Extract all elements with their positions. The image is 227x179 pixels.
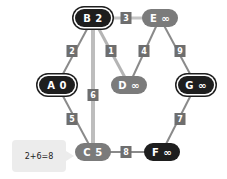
node-d[interactable]: D ∞ (111, 76, 147, 94)
edge-weight-b-d: 1 (106, 45, 117, 57)
edge-weight-a-c: 5 (67, 113, 78, 125)
edge-weight-b-e: 3 (121, 12, 132, 24)
graph-canvas: 321649587 B 2E ∞A 0D ∞G ∞C 5F ∞ 2+6=8 (0, 0, 227, 179)
tooltip-text: 2+6=8 (25, 152, 54, 161)
node-b[interactable]: B 2 (75, 9, 111, 27)
node-e[interactable]: E ∞ (142, 9, 178, 27)
node-f[interactable]: F ∞ (144, 143, 180, 161)
edge-weight-a-b: 2 (67, 45, 78, 57)
node-a[interactable]: A 0 (39, 76, 75, 94)
edge-weight-c-f: 8 (121, 146, 132, 158)
node-g[interactable]: G ∞ (178, 76, 214, 94)
node-c[interactable]: C 5 (75, 143, 111, 161)
calculation-tooltip: 2+6=8 (12, 140, 66, 172)
edge-weight-b-c: 6 (88, 89, 99, 101)
edge-weight-e-g: 9 (175, 45, 186, 57)
edge-weight-e-d: 4 (139, 45, 150, 57)
edge-weight-g-f: 7 (175, 113, 186, 125)
